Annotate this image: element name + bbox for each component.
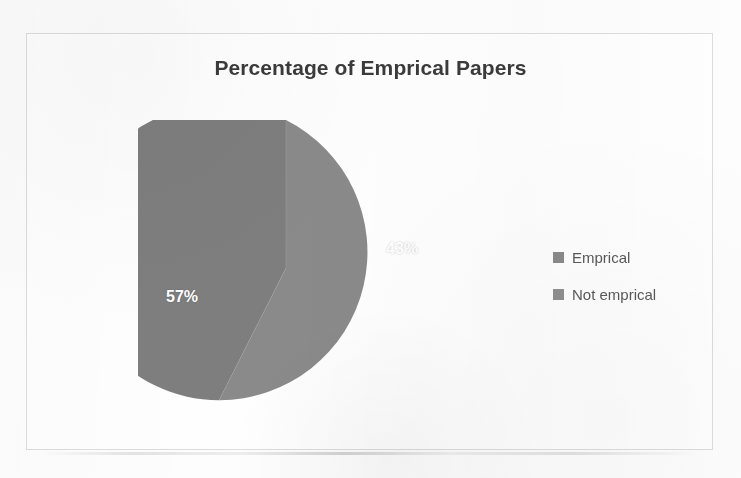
chart-frame: Percentage of Emprical Papers 43% 57% Em… xyxy=(26,33,713,450)
legend-label-emprical: Emprical xyxy=(572,249,630,266)
legend-item-emprical[interactable]: Emprical xyxy=(553,246,703,268)
pie-label-emprical: 43% xyxy=(386,240,418,258)
legend-swatch-icon-not-emprical xyxy=(553,289,564,300)
legend-item-not-emprical[interactable]: Not emprical xyxy=(553,283,703,305)
pie-label-not-emprical: 57% xyxy=(166,288,198,306)
scan-artifact-streak xyxy=(40,452,700,455)
chart-title: Percentage of Emprical Papers xyxy=(27,56,714,80)
pie-svg xyxy=(138,120,434,416)
legend-label-not-emprical: Not emprical xyxy=(572,286,656,303)
legend-swatch-icon-emprical xyxy=(553,252,564,263)
pie-chart: 43% 57% xyxy=(138,120,434,416)
chart-legend: Emprical Not emprical xyxy=(553,246,703,320)
